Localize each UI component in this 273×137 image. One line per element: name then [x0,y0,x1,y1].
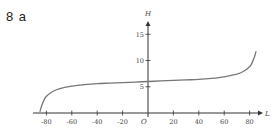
chart: -80-60-40-202040608051015 L H O [0,0,273,137]
y-axis-arrow-icon [146,21,151,26]
x-tick-label: 80 [245,118,253,126]
x-tick-label: -40 [92,118,102,126]
x-tick-label: 40 [195,118,203,126]
y-tick-label: 10 [136,57,144,65]
axes [33,21,263,117]
x-tick-label: 60 [220,118,228,126]
x-tick-label: -60 [67,118,77,126]
y-tick-label: 5 [140,83,144,91]
y-axis-label: H [144,10,152,18]
x-tick-label: -20 [117,118,127,126]
y-tick-label: 15 [136,31,144,39]
x-tick-label: 20 [169,118,177,126]
x-axis-arrow-icon [258,111,263,116]
origin-label: O [141,118,147,126]
x-axis-label: L [264,110,270,118]
ticks: -80-60-40-202040608051015 [41,31,254,126]
x-tick-label: -80 [41,118,51,126]
